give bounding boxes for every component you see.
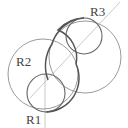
label-r2: R2: [16, 54, 31, 69]
circle-r1-small-lower: [27, 74, 65, 112]
geometry-diagram: R3 R2 R1: [0, 0, 128, 128]
circle-small-upper: [66, 18, 102, 54]
label-r1: R1: [26, 112, 41, 127]
circle-r3: [49, 21, 121, 93]
label-r3: R3: [90, 4, 105, 19]
